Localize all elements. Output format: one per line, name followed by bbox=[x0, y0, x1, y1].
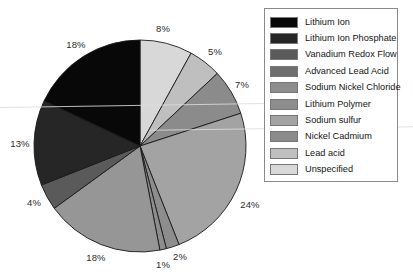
pie-slice-label-sodium-sulfur: 24% bbox=[240, 199, 259, 210]
legend-item-label: Lithium Ion Phosphate bbox=[305, 33, 396, 44]
legend-swatch-icon bbox=[270, 99, 298, 110]
pie-slices-group bbox=[34, 40, 246, 252]
legend-swatch-icon bbox=[270, 164, 298, 175]
pie-chart-plot-area: 8%5%7%24%2%1%18%4%13%18% bbox=[0, 0, 265, 276]
legend-item-label: Nickel Cadmium bbox=[305, 131, 372, 142]
pie-slice-label-unspecified: 8% bbox=[156, 23, 170, 34]
pie-slice-label-nickel-cadmium: 7% bbox=[235, 79, 249, 90]
legend-swatch-icon bbox=[270, 131, 298, 142]
pie-svg bbox=[0, 0, 265, 276]
legend-swatch-icon bbox=[270, 148, 298, 159]
legend: Lithium IonLithium Ion PhosphateVanadium… bbox=[264, 8, 398, 182]
pie-slice-label-advanced-lead-acid: 18% bbox=[86, 252, 105, 263]
legend-item-label: Sodium sulfur bbox=[305, 115, 361, 126]
legend-swatch-icon bbox=[270, 49, 298, 60]
pie-slice-label-lithium-ion: 18% bbox=[66, 39, 85, 50]
legend-item[interactable]: Lithium Polymer bbox=[265, 96, 397, 112]
pie-slice-label-lithium-polymer: 2% bbox=[173, 251, 187, 262]
legend-item-label: Lithium Ion bbox=[305, 17, 350, 28]
pie-slice-label-sodium-nickel-chloride: 1% bbox=[156, 259, 170, 270]
legend-item[interactable]: Sodium Nickel Chloride bbox=[265, 80, 397, 96]
legend-item-label: Advanced Lead Acid bbox=[305, 66, 389, 77]
legend-item[interactable]: Unspecified bbox=[265, 162, 397, 178]
legend-item[interactable]: Lithium Ion Phosphate bbox=[265, 30, 397, 46]
legend-swatch-icon bbox=[270, 115, 298, 126]
legend-swatch-icon bbox=[270, 66, 298, 77]
legend-item[interactable]: Nickel Cadmium bbox=[265, 129, 397, 145]
legend-item[interactable]: Lithium Ion bbox=[265, 14, 397, 30]
legend-item-label: Vanadium Redox Flow bbox=[305, 49, 397, 60]
pie-slice-label-lithium-ion-phosphate: 13% bbox=[10, 138, 29, 149]
legend-item-label: Lead acid bbox=[305, 148, 345, 159]
pie-chart-figure: 8%5%7%24%2%1%18%4%13%18% Lithium IonLith… bbox=[0, 0, 413, 276]
pie-slice-label-lead-acid: 5% bbox=[208, 46, 222, 57]
legend-item-label: Lithium Polymer bbox=[305, 99, 371, 110]
legend-item[interactable]: Lead acid bbox=[265, 145, 397, 161]
legend-item[interactable]: Vanadium Redox Flow bbox=[265, 47, 397, 63]
legend-item[interactable]: Sodium sulfur bbox=[265, 112, 397, 128]
legend-item-label: Unspecified bbox=[305, 164, 353, 175]
legend-swatch-icon bbox=[270, 82, 298, 93]
legend-item[interactable]: Advanced Lead Acid bbox=[265, 63, 397, 79]
legend-swatch-icon bbox=[270, 17, 298, 28]
pie-slice-label-vanadium-redox-flow: 4% bbox=[27, 197, 41, 208]
legend-swatch-icon bbox=[270, 33, 298, 44]
legend-item-label: Sodium Nickel Chloride bbox=[305, 82, 401, 93]
